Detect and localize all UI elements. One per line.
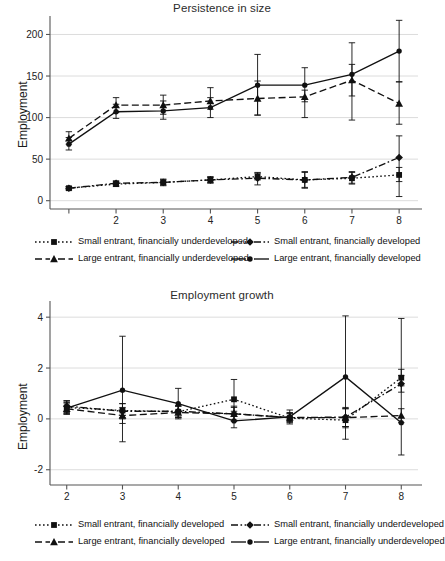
legend-row: Large entrant, financially underdevelope… bbox=[0, 250, 444, 267]
legend-label: Small entrant, financially developed bbox=[274, 237, 420, 246]
svg-text:0: 0 bbox=[37, 413, 43, 424]
legend-entry[interactable]: Small entrant, financially developed bbox=[216, 236, 444, 248]
legend-row: Large entrant, financially developed Lar… bbox=[0, 533, 444, 550]
svg-text:4: 4 bbox=[37, 312, 43, 323]
svg-text:5: 5 bbox=[231, 491, 237, 502]
legend-label: Large entrant, financially developed bbox=[274, 254, 421, 263]
legend-label: Small entrant, financially developed bbox=[78, 520, 224, 529]
legend-row: Small entrant, financially developed Sma… bbox=[0, 516, 444, 533]
legend-key-circle-solid-icon bbox=[230, 536, 270, 548]
legend-top: Small entrant, financially underdevelope… bbox=[0, 233, 444, 267]
svg-text:2: 2 bbox=[113, 215, 119, 226]
legend-entry[interactable]: Small entrant, financially underdevelope… bbox=[216, 519, 444, 531]
legend-entry[interactable]: Large entrant, financially underdevelope… bbox=[0, 253, 216, 265]
svg-text:4: 4 bbox=[175, 491, 181, 502]
legend-key-circle-solid-icon bbox=[230, 253, 270, 265]
svg-text:6: 6 bbox=[287, 491, 293, 502]
legend-key-square-dotted-icon bbox=[34, 519, 74, 531]
legend-label: Large entrant, financially underdevelope… bbox=[274, 537, 445, 546]
legend-entry[interactable]: Small entrant, financially developed bbox=[0, 519, 216, 531]
legend-entry[interactable]: Small entrant, financially underdevelope… bbox=[0, 236, 216, 248]
y-axis-label-bottom: Employment bbox=[16, 383, 30, 450]
legend-row: Small entrant, financially underdevelope… bbox=[0, 233, 444, 250]
svg-text:-2: -2 bbox=[34, 464, 43, 475]
legend-entry[interactable]: Large entrant, financially developed bbox=[216, 253, 444, 265]
legend-entry[interactable]: Large entrant, financially developed bbox=[0, 536, 216, 548]
legend-key-diamond-dashdot-icon bbox=[230, 236, 270, 248]
legend-key-diamond-dashdot-icon bbox=[230, 519, 270, 531]
svg-text:3: 3 bbox=[120, 491, 126, 502]
svg-text:8: 8 bbox=[398, 491, 404, 502]
svg-text:100: 100 bbox=[26, 112, 43, 123]
legend-bottom: Small entrant, financially developed Sma… bbox=[0, 516, 444, 550]
legend-key-square-dotted-icon bbox=[34, 236, 74, 248]
svg-text:3: 3 bbox=[160, 215, 166, 226]
svg-text:200: 200 bbox=[26, 29, 43, 40]
svg-text:150: 150 bbox=[26, 71, 43, 82]
legend-label: Large entrant, financially developed bbox=[78, 537, 225, 546]
svg-text:4: 4 bbox=[208, 215, 214, 226]
svg-text:7: 7 bbox=[349, 215, 355, 226]
legend-key-triangle-dashed-icon bbox=[34, 253, 74, 265]
svg-text:8: 8 bbox=[396, 215, 402, 226]
svg-text:7: 7 bbox=[343, 491, 349, 502]
svg-text:50: 50 bbox=[32, 154, 44, 165]
svg-text:0: 0 bbox=[37, 195, 43, 206]
svg-text:5: 5 bbox=[255, 215, 261, 226]
legend-entry[interactable]: Large entrant, financially underdevelope… bbox=[216, 536, 444, 548]
legend-label: Small entrant, financially underdevelope… bbox=[274, 520, 444, 529]
svg-text:2: 2 bbox=[37, 363, 43, 374]
svg-text:2: 2 bbox=[64, 491, 70, 502]
svg-text:6: 6 bbox=[302, 215, 308, 226]
legend-key-triangle-dashed-icon bbox=[34, 536, 74, 548]
